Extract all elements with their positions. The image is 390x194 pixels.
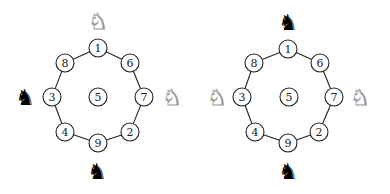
edge-9-4 — [264, 135, 280, 140]
edge-7-2 — [133, 105, 140, 123]
node-label: 5 — [95, 91, 102, 104]
node-label: 4 — [62, 126, 69, 139]
node-label: 4 — [252, 126, 259, 139]
black-knight-bottom: ♞ — [278, 159, 298, 184]
edge-7-2 — [323, 105, 331, 123]
black-knight-bottom: ♞ — [87, 159, 107, 184]
knight-icon: ♞ — [278, 159, 298, 184]
node-label: 1 — [285, 43, 292, 56]
node-2: 2 — [310, 123, 328, 141]
node-label: 6 — [317, 57, 324, 70]
node-1: 1 — [279, 40, 297, 58]
node-label: 7 — [141, 91, 148, 104]
knight-puzzle-diagram: 167294385♞♞♞♞167294385♞♞♞♞ — [0, 0, 390, 194]
node-label: 8 — [251, 57, 258, 70]
node-6: 6 — [121, 54, 139, 72]
node-label: 2 — [127, 126, 134, 139]
node-label: 3 — [239, 91, 246, 104]
knight-icon: ♞ — [88, 9, 108, 34]
node-9: 9 — [279, 134, 297, 152]
knight-icon: ♞ — [87, 159, 107, 184]
node-4: 4 — [246, 123, 264, 141]
node-label: 9 — [95, 137, 102, 150]
edge-3-8 — [55, 71, 62, 88]
edge-1-6 — [106, 52, 122, 59]
node-2: 2 — [121, 123, 139, 141]
node-8: 8 — [56, 54, 74, 72]
knight-icon: ♞ — [15, 85, 35, 110]
knight-icon: ♞ — [350, 85, 370, 110]
white-knight-right: ♞ — [162, 85, 182, 110]
node-label: 7 — [331, 91, 338, 104]
edge-1-6 — [296, 53, 312, 60]
node-4: 4 — [56, 123, 74, 141]
edge-8-1 — [262, 52, 279, 59]
edge-3-8 — [245, 71, 251, 88]
node-label: 9 — [285, 137, 292, 150]
node-label: 6 — [127, 57, 134, 70]
right-position: 167294385♞♞♞♞ — [207, 10, 370, 184]
node-label: 2 — [316, 126, 323, 139]
node-label: 8 — [62, 57, 69, 70]
edge-8-1 — [73, 52, 90, 60]
knight-icon: ♞ — [207, 85, 227, 110]
black-knight-top: ♞ — [278, 10, 298, 35]
node-8: 8 — [245, 54, 263, 72]
node-3: 3 — [233, 88, 251, 106]
knight-icon: ♞ — [278, 10, 298, 35]
white-knight-right: ♞ — [350, 85, 370, 110]
node-3: 3 — [43, 88, 61, 106]
knight-icon: ♞ — [162, 85, 182, 110]
node-label: 5 — [286, 91, 293, 104]
edge-6-7 — [323, 71, 330, 88]
black-knight-left: ♞ — [15, 85, 35, 110]
node-6: 6 — [311, 54, 329, 72]
node-label: 1 — [95, 42, 102, 55]
node-label: 3 — [49, 91, 56, 104]
node-5: 5 — [280, 88, 298, 106]
node-9: 9 — [89, 134, 107, 152]
node-1: 1 — [89, 39, 107, 57]
left-position: 167294385♞♞♞♞ — [15, 9, 182, 184]
edge-6-7 — [133, 71, 140, 88]
node-7: 7 — [325, 88, 343, 106]
white-knight-left: ♞ — [207, 85, 227, 110]
white-knight-top: ♞ — [88, 9, 108, 34]
node-5: 5 — [89, 88, 107, 106]
edge-2-9 — [107, 135, 122, 140]
edge-9-4 — [74, 135, 90, 140]
edge-4-3 — [55, 105, 62, 123]
edge-2-9 — [296, 135, 310, 140]
edge-4-3 — [245, 105, 252, 123]
node-7: 7 — [135, 88, 153, 106]
